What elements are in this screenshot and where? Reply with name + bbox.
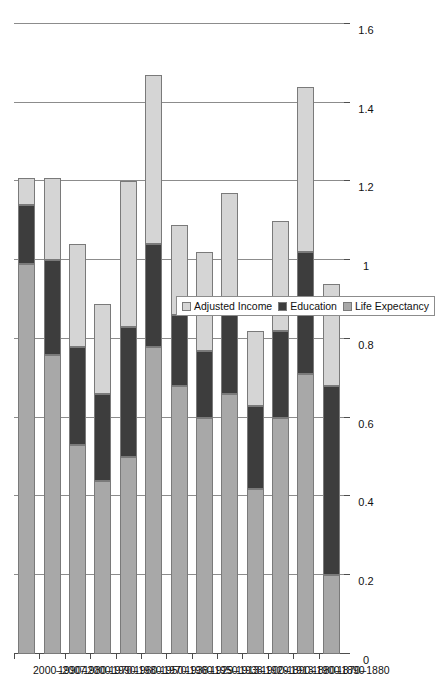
value-axis-tick xyxy=(344,574,350,575)
bar-stack xyxy=(69,24,86,654)
legend-label: Adjusted Income xyxy=(194,300,272,312)
bar-stack xyxy=(196,24,213,654)
bar-segment-adjusted-income xyxy=(69,245,86,347)
bar-segment-life-expectancy xyxy=(69,445,86,654)
bar-segment-adjusted-income xyxy=(18,178,35,206)
bar-stack xyxy=(297,24,314,654)
value-axis-tick-label: 0.4 xyxy=(358,497,373,509)
bar-segment-adjusted-income xyxy=(221,193,238,303)
category-axis-tick xyxy=(166,654,167,659)
category-axis-tick xyxy=(116,654,117,659)
bar-segment-adjusted-income xyxy=(44,178,61,261)
bar-segment-education xyxy=(18,205,35,264)
legend-swatch xyxy=(182,302,191,311)
chart-legend: Adjusted IncomeEducationLife Expectancy xyxy=(176,296,435,316)
bar-segment-life-expectancy xyxy=(221,394,238,654)
value-axis-tick xyxy=(344,653,350,654)
bar-segment-life-expectancy xyxy=(196,418,213,654)
bar-segment-adjusted-income xyxy=(120,182,137,328)
category-axis-tick xyxy=(39,654,40,659)
legend-item: Education xyxy=(278,300,337,312)
value-axis-tick-label: 0.6 xyxy=(358,418,373,430)
bar-stack xyxy=(145,24,162,654)
bar-series-group xyxy=(14,24,344,654)
value-axis-tick-label: 0.8 xyxy=(358,339,373,351)
category-axis-tick xyxy=(242,654,243,659)
bar-segment-life-expectancy xyxy=(120,457,137,654)
category-axis-tick xyxy=(293,654,294,659)
bar-stack xyxy=(94,24,111,654)
legend-item: Adjusted Income xyxy=(182,300,272,312)
legend-label: Education xyxy=(290,300,337,312)
bar-stack xyxy=(120,24,137,654)
bar-segment-education xyxy=(69,347,86,445)
category-axis-label: 2000–2007 xyxy=(33,664,86,676)
legend-label: Life Expectancy xyxy=(355,300,429,312)
value-axis-tick xyxy=(344,496,350,497)
bar-segment-education xyxy=(44,260,61,355)
bar-segment-education xyxy=(145,245,162,347)
value-axis-tick xyxy=(344,338,350,339)
bar-segment-education xyxy=(196,351,213,418)
bar-stack xyxy=(272,24,289,654)
bar-stack xyxy=(323,24,340,654)
bar-stack xyxy=(247,24,264,654)
bar-segment-life-expectancy xyxy=(94,481,111,654)
category-axis-tick xyxy=(268,654,269,659)
bar-segment-education xyxy=(94,394,111,481)
value-axis-tick xyxy=(344,23,350,24)
bar-segment-life-expectancy xyxy=(18,264,35,654)
bar-segment-life-expectancy xyxy=(145,347,162,654)
bar-stack xyxy=(18,24,35,654)
bar-stack xyxy=(171,24,188,654)
bar-segment-education xyxy=(272,331,289,418)
legend-swatch xyxy=(278,302,287,311)
value-axis-tick-label: 1.4 xyxy=(358,103,373,115)
category-axis-tick xyxy=(90,654,91,659)
value-axis-tick-label: 1.2 xyxy=(358,182,373,194)
category-axis-tick xyxy=(14,654,15,659)
bar-segment-life-expectancy xyxy=(272,418,289,654)
legend-item: Life Expectancy xyxy=(343,300,429,312)
value-axis-tick-label: 1 xyxy=(363,260,369,272)
bar-segment-adjusted-income xyxy=(247,331,264,406)
bar-segment-life-expectancy xyxy=(247,489,264,654)
bar-segment-education xyxy=(221,304,238,395)
bar-segment-adjusted-income xyxy=(94,304,111,395)
value-axis-tick xyxy=(344,259,350,260)
category-axis-tick xyxy=(319,654,320,659)
category-axis-tick xyxy=(217,654,218,659)
bar-segment-life-expectancy xyxy=(297,374,314,654)
bar-segment-education xyxy=(247,406,264,489)
bar-segment-education xyxy=(323,386,340,575)
value-axis-tick-label: 1.6 xyxy=(358,24,373,36)
bar-segment-life-expectancy xyxy=(171,386,188,654)
category-axis-tick xyxy=(141,654,142,659)
bar-stack xyxy=(44,24,61,654)
bar-segment-adjusted-income xyxy=(145,75,162,244)
bar-segment-life-expectancy xyxy=(44,355,61,654)
bar-segment-education xyxy=(120,327,137,457)
bar-segment-life-expectancy xyxy=(323,575,340,654)
bar-segment-adjusted-income xyxy=(297,87,314,252)
value-axis-tick xyxy=(344,102,350,103)
value-axis-tick-label: 0.2 xyxy=(358,575,373,587)
bar-segment-education xyxy=(171,315,188,386)
category-axis-tick xyxy=(192,654,193,659)
category-axis-tick xyxy=(65,654,66,659)
legend-swatch xyxy=(343,302,352,311)
value-axis-tick xyxy=(344,181,350,182)
bar-stack xyxy=(221,24,238,654)
value-axis-tick xyxy=(344,417,350,418)
value-axis-area: 00.20.40.60.811.21.41.6 1870–18801880–18… xyxy=(14,24,344,654)
